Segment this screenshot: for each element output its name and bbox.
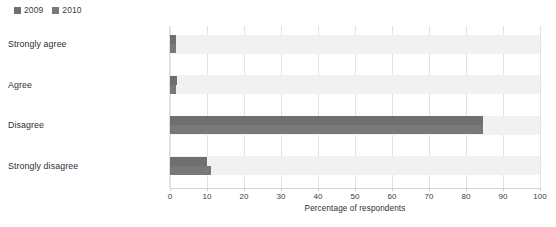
bar-2010-agree[interactable]	[170, 85, 176, 94]
x-tick-mark-60	[392, 188, 393, 191]
bar-2009-strongly-disagree[interactable]	[170, 157, 207, 166]
bar-2010-disagree[interactable]	[170, 125, 483, 134]
bar-chart: 2009 2010 Strongly agreeAgreeDisagreeStr…	[0, 0, 556, 227]
legend-swatch-2010	[52, 7, 59, 14]
x-tick-label-70: 70	[425, 192, 434, 201]
x-tick-label-50: 50	[351, 192, 360, 201]
bar-2009-disagree[interactable]	[170, 116, 483, 125]
legend-label-2009: 2009	[24, 6, 43, 15]
x-tick-mark-10	[207, 188, 208, 191]
x-tick-label-10: 10	[203, 192, 212, 201]
row-band	[170, 156, 540, 175]
x-tick-label-30: 30	[277, 192, 286, 201]
row-band	[170, 75, 540, 94]
bar-rows	[170, 26, 540, 188]
gridline-100	[540, 26, 541, 188]
category-label-agree: Agree	[8, 80, 150, 90]
x-tick-mark-50	[355, 188, 356, 191]
x-tick-label-40: 40	[314, 192, 323, 201]
category-label-strongly-disagree: Strongly disagree	[8, 161, 150, 171]
bar-2009-strongly-agree[interactable]	[170, 35, 176, 44]
bar-row	[170, 35, 540, 54]
row-band	[170, 35, 540, 54]
x-tick-mark-90	[503, 188, 504, 191]
category-label-strongly-agree: Strongly agree	[8, 39, 150, 49]
x-tick-mark-20	[244, 188, 245, 191]
x-tick-label-20: 20	[240, 192, 249, 201]
bar-2009-agree[interactable]	[170, 76, 177, 85]
bar-2010-strongly-disagree[interactable]	[170, 166, 211, 175]
legend-entry-2010[interactable]: 2010	[52, 6, 81, 15]
x-tick-label-0: 0	[168, 192, 172, 201]
x-tick-label-80: 80	[462, 192, 471, 201]
x-tick-mark-70	[429, 188, 430, 191]
x-tick-label-90: 90	[499, 192, 508, 201]
bar-row	[170, 156, 540, 175]
legend-entry-2009[interactable]: 2009	[14, 6, 43, 15]
chart-legend: 2009 2010	[14, 4, 82, 16]
bar-2010-strongly-agree[interactable]	[170, 44, 176, 53]
legend-swatch-2009	[14, 7, 21, 14]
x-tick-mark-80	[466, 188, 467, 191]
category-axis-labels: Strongly agreeAgreeDisagreeStrongly disa…	[0, 26, 162, 188]
x-axis-title: Percentage of respondents	[170, 204, 540, 214]
y-axis-spine	[169, 26, 170, 188]
x-tick-mark-100	[540, 188, 541, 191]
legend-label-2010: 2010	[62, 6, 81, 15]
bar-row	[170, 116, 540, 135]
x-tick-mark-30	[281, 188, 282, 191]
x-tick-label-100: 100	[533, 192, 546, 201]
plot-area	[170, 26, 540, 188]
x-tick-mark-40	[318, 188, 319, 191]
x-tick-label-60: 60	[388, 192, 397, 201]
bar-row	[170, 75, 540, 94]
category-label-disagree: Disagree	[8, 120, 150, 130]
x-tick-mark-0	[170, 188, 171, 191]
